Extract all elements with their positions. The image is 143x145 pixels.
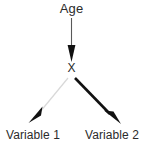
edge-x-to-variable-2 <box>75 78 121 124</box>
node-label-age: Age <box>0 2 143 15</box>
edge-x-to-variable-1-line <box>40 78 68 112</box>
node-label-variable-2: Variable 2 <box>81 129 143 141</box>
edge-x-to-variable-1 <box>29 78 69 123</box>
node-label-x: X <box>0 62 143 74</box>
path-diagram: Age X Variable 1 Variable 2 <box>0 0 143 145</box>
edge-x-to-variable-2-arrowhead <box>104 111 121 125</box>
edge-x-to-variable-2-line <box>75 78 110 114</box>
edge-x-to-variable-1-arrowhead <box>29 107 43 124</box>
edge-age-to-x-arrowhead <box>68 45 76 62</box>
edge-age-to-x <box>68 18 76 62</box>
node-label-variable-1: Variable 1 <box>2 129 64 141</box>
